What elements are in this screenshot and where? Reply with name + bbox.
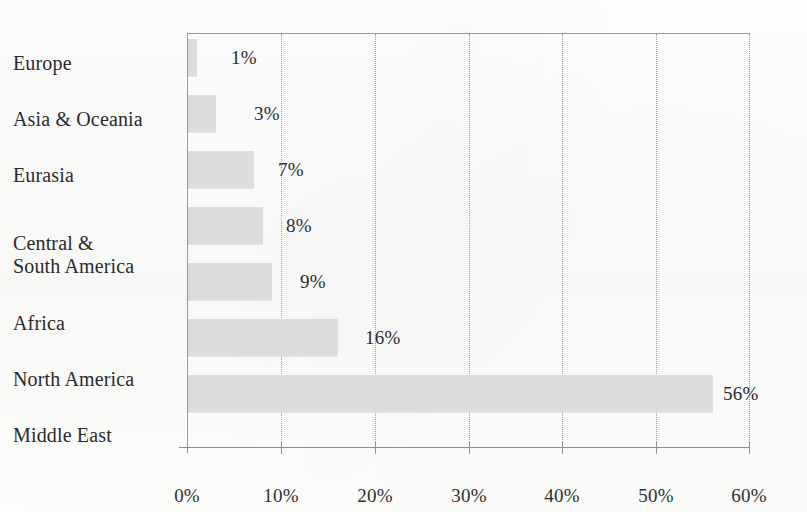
tick-mark-30 (469, 442, 470, 453)
category-label-north-america: North America (13, 368, 185, 391)
bar-eurasia (188, 151, 254, 189)
bar-central-south-america (188, 207, 263, 245)
value-label-central-south-america: 8% (286, 215, 312, 237)
value-label-eurasia: 7% (278, 159, 304, 181)
plot-area: 1% 3% 7% 8% 9% 16% 56% 0% 10% 20% 30% 40… (187, 33, 750, 447)
category-label-middle-east: Middle East (13, 424, 185, 447)
value-label-africa: 9% (300, 271, 326, 293)
tick-mark-10 (281, 442, 282, 453)
bar-asia-oceania (188, 95, 216, 133)
value-label-middle-east: 56% (723, 383, 758, 405)
value-label-europe: 1% (231, 47, 257, 69)
value-label-asia-oceania: 3% (254, 103, 280, 125)
bar-europe (188, 39, 197, 77)
category-axis-labels: Europe Asia & Oceania Eurasia Central & … (10, 0, 185, 512)
tick-mark-40 (562, 442, 563, 453)
xtick-label-60: 60% (731, 485, 766, 507)
tick-mark-0 (187, 442, 188, 453)
tick-mark-20 (375, 442, 376, 453)
value-label-north-america: 16% (365, 327, 400, 349)
xtick-label-0: 0% (174, 485, 200, 507)
bar-north-america (188, 319, 338, 357)
category-label-asia-oceania: Asia & Oceania (13, 108, 185, 131)
xtick-label-50: 50% (638, 485, 673, 507)
category-label-europe: Europe (13, 52, 185, 75)
tick-mark-50 (656, 442, 657, 453)
category-label-africa: Africa (13, 312, 185, 335)
bar-chart-figure: Europe Asia & Oceania Eurasia Central & … (0, 0, 807, 512)
xtick-label-20: 20% (357, 485, 392, 507)
xtick-label-10: 10% (263, 485, 298, 507)
category-label-central-south-america: Central & South America (13, 232, 185, 278)
xtick-label-30: 30% (451, 485, 486, 507)
xtick-label-40: 40% (544, 485, 579, 507)
bar-africa (188, 263, 272, 301)
bar-middle-east (188, 375, 713, 413)
category-label-eurasia: Eurasia (13, 164, 185, 187)
tick-mark-60 (749, 442, 750, 453)
category-axis-line (179, 447, 750, 448)
